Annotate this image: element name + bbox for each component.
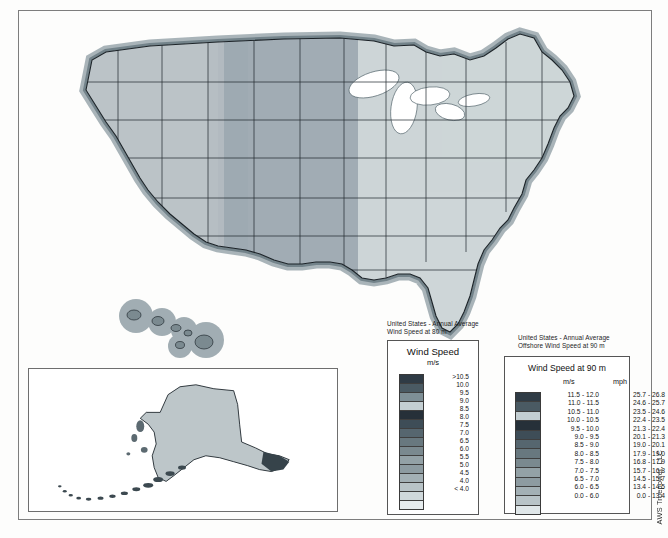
offshore-legend-row: 0.0 - 6.00.0 - 13.4 [545, 492, 668, 500]
offshore-legend-swatch [516, 487, 540, 496]
onshore-legend-label: 4.0 [424, 477, 472, 485]
onshore-legend-swatch [400, 447, 423, 456]
conus-terrain-raster [22, 12, 622, 362]
onshore-legend-swatch [400, 420, 423, 429]
publisher-credit: AWS Truepower, LLC [655, 450, 664, 524]
onshore-legend-swatch [400, 483, 423, 492]
offshore-legend-swatch [516, 459, 540, 468]
offshore-legend-caption: United States - Annual Average Offshore … [518, 334, 668, 351]
onshore-legend-swatch [400, 465, 423, 474]
offshore-legend-title: Wind Speed at 90 m [505, 362, 629, 374]
offshore-legend-swatch [516, 478, 540, 487]
offshore-legend-rows: 11.5 - 12.025.7 - 26.811.0 - 11.524.6 - … [545, 391, 668, 500]
conus-map-graphic [22, 12, 622, 362]
onshore-legend-label: 6.0 [424, 445, 472, 453]
onshore-legend-swatch [400, 456, 423, 465]
conus-map-container [22, 12, 622, 362]
onshore-legend-swatch [400, 438, 423, 447]
offshore-legend-row: 8.0 - 8.517.9 - 19.0 [545, 450, 668, 458]
onshore-legend-label: 10.0 [424, 381, 472, 389]
onshore-legend-label: 5.0 [424, 461, 472, 469]
onshore-legend-label: 5.5 [424, 453, 472, 461]
onshore-legend-box: Wind Speed m/s >10.510.09.59.08.58.07.57… [387, 340, 479, 515]
onshore-legend-label: 6.5 [424, 437, 472, 445]
alaska-map-graphic [29, 369, 337, 511]
onshore-legend-swatch [400, 402, 423, 411]
onshore-legend-labels: >10.510.09.59.08.58.07.57.06.56.05.55.04… [424, 373, 472, 493]
onshore-legend-colorbar [399, 374, 424, 510]
onshore-legend-swatch [400, 375, 423, 384]
onshore-legend-subtitle: m/s [388, 358, 478, 368]
offshore-legend-row: 11.5 - 12.025.7 - 26.8 [545, 391, 668, 399]
offshore-legend-row: 11.0 - 11.524.6 - 25.7 [545, 399, 668, 407]
offshore-legend-swatch [516, 440, 540, 449]
offshore-legend-row: 7.0 - 7.515.7 - 16.8 [545, 467, 668, 475]
onshore-legend-label: < 4.0 [424, 485, 472, 493]
onshore-legend-label: 7.5 [424, 421, 472, 429]
onshore-legend-label: 8.5 [424, 405, 472, 413]
bering-islands [126, 420, 147, 455]
onshore-legend-label: 4.5 [424, 469, 472, 477]
offshore-legend-units-row: m/s mph [505, 377, 629, 389]
onshore-legend-caption: United States - Annual Average Wind Spee… [387, 320, 527, 337]
offshore-legend-row: 6.5 - 7.014.5 - 15.7 [545, 475, 668, 483]
offshore-legend-swatch [516, 421, 540, 430]
offshore-legend-row: 9.0 - 9.520.1 - 21.3 [545, 433, 668, 441]
offshore-legend-row: 6.0 - 6.513.4 - 14.5 [545, 483, 668, 491]
offshore-legend-row: 10.0 - 10.522.4 - 23.5 [545, 416, 668, 424]
onshore-legend-title: Wind Speed [388, 346, 478, 358]
offshore-legend-swatch [516, 468, 540, 477]
onshore-legend-label: 9.0 [424, 397, 472, 405]
onshore-legend-swatch [400, 429, 423, 438]
onshore-legend-label: >10.5 [424, 373, 472, 381]
offshore-legend-colorbar [515, 392, 541, 515]
offshore-legend-swatch [516, 449, 540, 458]
hawaii-islands-group [119, 299, 224, 358]
onshore-legend-swatch [400, 474, 423, 483]
offshore-legend-box: Wind Speed at 90 m m/s mph 11.5 - 12.025… [504, 356, 630, 514]
onshore-legend-label: 7.0 [424, 429, 472, 437]
offshore-legend-swatch [516, 393, 540, 402]
offshore-legend-row: 10.5 - 11.023.5 - 24.6 [545, 408, 668, 416]
onshore-legend-swatch [400, 393, 423, 402]
onshore-legend-swatch [400, 501, 423, 509]
onshore-legend-swatch [400, 492, 423, 501]
wind-map-page: United States - Annual Average Wind Spee… [0, 0, 668, 538]
onshore-legend-label: 9.5 [424, 389, 472, 397]
offshore-legend-swatch [516, 496, 540, 505]
offshore-legend-row: 9.5 - 10.021.3 - 22.4 [545, 425, 668, 433]
offshore-legend-mph-header: mph [613, 377, 627, 386]
offshore-legend-swatch [516, 402, 540, 411]
offshore-legend-ms-header: m/s [563, 377, 575, 386]
offshore-legend-swatch [516, 506, 540, 514]
onshore-legend-label: 8.0 [424, 413, 472, 421]
offshore-legend-row: 8.5 - 9.019.0 - 20.1 [545, 441, 668, 449]
offshore-legend-ms-value: 0.0 - 6.0 [545, 492, 599, 501]
onshore-legend-swatch [400, 384, 423, 393]
offshore-legend-swatch [516, 431, 540, 440]
offshore-legend-swatch [516, 412, 540, 421]
onshore-legend-swatch [400, 411, 423, 420]
offshore-legend-row: 7.5 - 8.016.8 - 17.9 [545, 458, 668, 466]
alaska-inset-frame [28, 368, 338, 512]
